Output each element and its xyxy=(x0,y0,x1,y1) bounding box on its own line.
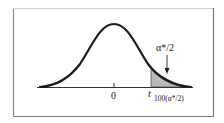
center-label: 0 xyxy=(111,90,116,101)
upper-tail-shaded-area xyxy=(151,70,191,88)
critical-value-symbol: t xyxy=(148,88,151,99)
tail-arrow xyxy=(165,55,170,74)
tail-area-label: α*/2 xyxy=(156,42,174,53)
critical-value-label: t 100(α*/2) xyxy=(148,88,184,103)
density-curve xyxy=(40,24,191,87)
critical-value-subscript: 100(α*/2) xyxy=(154,94,184,103)
t-distribution-figure: α*/2 0 t 100(α*/2) xyxy=(0,0,224,123)
